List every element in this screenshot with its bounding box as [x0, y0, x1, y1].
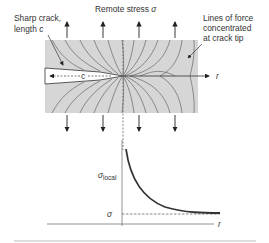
crack-label-line1: Sharp crack, [14, 13, 61, 23]
stress-curve [126, 149, 220, 213]
remote-stress-label: Remote stress σ [95, 4, 157, 14]
r-label-bottom: r [218, 219, 222, 229]
force-label-line2: concentrated [203, 23, 252, 33]
crack-label-line2: length c [14, 24, 44, 34]
crack-stress-diagram: c r Sharp crack, length c Remote stress … [0, 0, 269, 243]
specimen-block [45, 40, 198, 113]
force-label-line3: at crack tip [203, 33, 244, 43]
force-label-line1: Lines of force [203, 13, 254, 23]
sigma-remote-label: σ [107, 209, 113, 219]
r-label-top: r [216, 71, 220, 81]
crack-c-label: c [81, 71, 85, 81]
stress-graph: r σ σlocal [47, 140, 222, 229]
sigma-local-label: σlocal [98, 170, 117, 181]
